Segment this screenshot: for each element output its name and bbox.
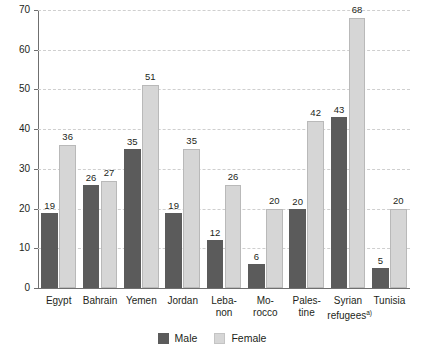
bar-group: 520 bbox=[372, 10, 407, 288]
y-axis-tick-label: 70 bbox=[0, 5, 30, 15]
bar-female[interactable]: 36 bbox=[59, 145, 76, 288]
bar-female[interactable]: 27 bbox=[101, 181, 118, 288]
y-axis-tick-label: 60 bbox=[0, 45, 30, 55]
bar-value-label: 20 bbox=[269, 196, 280, 206]
y-axis-tick-label: 50 bbox=[0, 84, 30, 94]
x-axis-label: Jordan bbox=[162, 295, 203, 307]
x-axis-label: Tunisia bbox=[369, 295, 410, 307]
y-axis-tick-label: 20 bbox=[0, 204, 30, 214]
bar-group: 4368 bbox=[331, 10, 366, 288]
bar-group: 2627 bbox=[83, 10, 118, 288]
bar-value-label: 26 bbox=[86, 173, 97, 183]
bar-male[interactable]: 5 bbox=[372, 268, 389, 288]
bar-male[interactable]: 19 bbox=[41, 213, 58, 288]
bar-value-label: 12 bbox=[210, 228, 221, 238]
x-axis-label: Pales- tine bbox=[286, 295, 327, 318]
bar-chart: 706050403020100 193626273551193512266202… bbox=[0, 0, 424, 354]
plot-area: 1936262735511935122662020424368520 bbox=[38, 10, 410, 288]
bar-value-label: 35 bbox=[127, 137, 138, 147]
bar-female[interactable]: 51 bbox=[142, 85, 159, 288]
bar-female[interactable]: 20 bbox=[266, 209, 283, 288]
bar-male[interactable]: 43 bbox=[331, 117, 348, 288]
x-axis-label: Bahrain bbox=[79, 295, 120, 307]
x-axis-label: Mo- rocco bbox=[245, 295, 286, 318]
bar-group: 1936 bbox=[41, 10, 76, 288]
x-axis-label: Egypt bbox=[38, 295, 79, 307]
legend-label-female: Female bbox=[231, 333, 266, 344]
bar-group: 1935 bbox=[165, 10, 200, 288]
bar-male[interactable]: 12 bbox=[207, 240, 224, 288]
x-axis-line bbox=[38, 288, 410, 289]
bar-group: 1226 bbox=[207, 10, 242, 288]
legend-label-male: Male bbox=[175, 333, 198, 344]
bar-male[interactable]: 6 bbox=[248, 264, 265, 288]
bar-group: 2042 bbox=[289, 10, 324, 288]
bar-male[interactable]: 20 bbox=[289, 209, 306, 288]
bar-male[interactable]: 35 bbox=[124, 149, 141, 288]
bar-value-label: 36 bbox=[62, 132, 73, 142]
bar-female[interactable]: 20 bbox=[390, 209, 407, 288]
bar-value-label: 43 bbox=[334, 105, 345, 115]
legend-item-male[interactable]: Male bbox=[158, 333, 198, 344]
bar-male[interactable]: 19 bbox=[165, 213, 182, 288]
bar-value-label: 68 bbox=[352, 5, 363, 15]
bar-female[interactable]: 42 bbox=[307, 121, 324, 288]
bar-value-label: 20 bbox=[393, 196, 404, 206]
bar-value-label: 26 bbox=[228, 172, 239, 182]
legend: Male Female bbox=[0, 333, 424, 344]
y-axis-tick-label: 10 bbox=[0, 243, 30, 253]
bar-value-label: 42 bbox=[310, 108, 321, 118]
bar-value-label: 19 bbox=[44, 201, 55, 211]
bar-female[interactable]: 35 bbox=[183, 149, 200, 288]
bar-value-label: 6 bbox=[254, 252, 259, 262]
bar-value-label: 20 bbox=[292, 197, 303, 207]
x-axis-label: Syrianrefugeesa) bbox=[327, 295, 368, 321]
bar-value-label: 5 bbox=[378, 256, 383, 266]
bar-group: 3551 bbox=[124, 10, 159, 288]
y-axis-tick-label: 40 bbox=[0, 124, 30, 134]
bar-female[interactable]: 26 bbox=[225, 185, 242, 288]
footnote-marker: a) bbox=[366, 309, 372, 316]
bar-value-label: 19 bbox=[168, 201, 179, 211]
x-axis-label: Yemen bbox=[121, 295, 162, 307]
y-axis-tick-label: 30 bbox=[0, 164, 30, 174]
bar-value-label: 51 bbox=[145, 72, 156, 82]
bar-group: 620 bbox=[248, 10, 283, 288]
x-axis-label: Leba- non bbox=[203, 295, 244, 318]
y-axis-tick-label: 0 bbox=[0, 283, 30, 293]
bar-female[interactable]: 68 bbox=[349, 18, 366, 288]
bar-value-label: 27 bbox=[104, 168, 115, 178]
bar-male[interactable]: 26 bbox=[83, 185, 100, 288]
legend-item-female[interactable]: Female bbox=[214, 333, 266, 344]
male-swatch-icon bbox=[158, 333, 169, 344]
female-swatch-icon bbox=[214, 333, 225, 344]
bar-value-label: 35 bbox=[186, 136, 197, 146]
